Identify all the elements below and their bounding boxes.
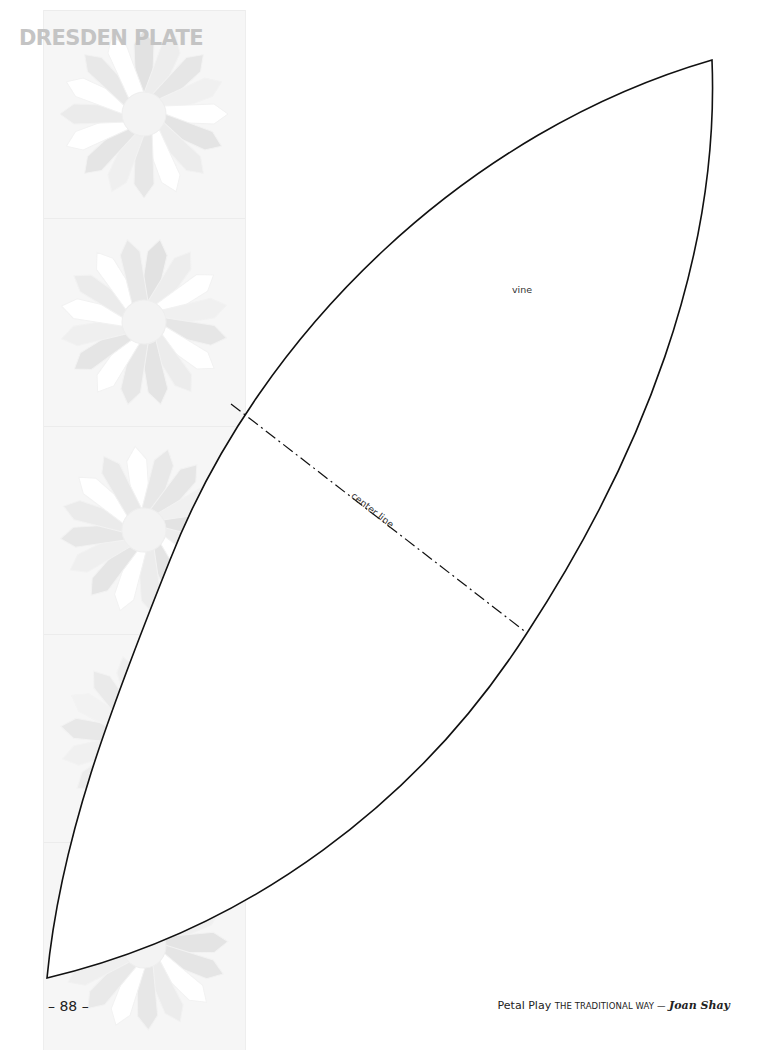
- page-number: – 88 –: [48, 998, 89, 1014]
- vine-template-shape: [0, 0, 760, 1054]
- author-name: Joan Shay: [669, 999, 730, 1012]
- footer-credit: Petal Play THE TRADITIONAL WAY — Joan Sh…: [498, 999, 730, 1012]
- book-title: Petal Play: [498, 999, 552, 1012]
- book-subtitle: THE TRADITIONAL WAY —: [555, 1001, 666, 1011]
- vine-label: vine: [512, 284, 532, 295]
